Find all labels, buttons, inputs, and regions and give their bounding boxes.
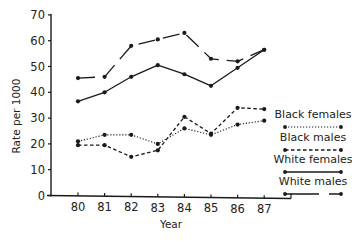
y-tick-label: 60 bbox=[30, 34, 45, 48]
legend-marker bbox=[283, 192, 287, 196]
y-tick-label: 10 bbox=[30, 163, 45, 177]
data-point bbox=[209, 131, 213, 135]
data-point bbox=[129, 44, 133, 48]
series-white-males bbox=[76, 31, 266, 80]
data-point bbox=[103, 75, 107, 79]
data-point bbox=[129, 75, 133, 79]
data-point bbox=[182, 72, 186, 76]
y-tick-label: 70 bbox=[30, 8, 45, 22]
legend-marker bbox=[283, 148, 287, 152]
data-point bbox=[236, 122, 240, 126]
x-axis: 8081828384858687 bbox=[47, 193, 291, 217]
legend-marker bbox=[283, 170, 287, 174]
data-point bbox=[76, 139, 80, 143]
data-point bbox=[262, 48, 266, 52]
data-point bbox=[103, 143, 107, 147]
legend-label: Black females bbox=[275, 108, 352, 121]
data-point bbox=[129, 133, 133, 137]
data-point bbox=[236, 106, 240, 110]
data-point bbox=[103, 90, 107, 94]
data-point bbox=[182, 115, 186, 119]
x-tick-label: 83 bbox=[150, 201, 165, 215]
data-point bbox=[76, 99, 80, 103]
data-point bbox=[262, 119, 266, 123]
legend-label: White males bbox=[279, 175, 348, 188]
data-point bbox=[209, 84, 213, 88]
data-point bbox=[209, 57, 213, 61]
x-tick-label: 87 bbox=[257, 202, 272, 216]
y-tick-label: 50 bbox=[30, 60, 45, 74]
data-point bbox=[156, 142, 160, 146]
x-tick-label: 80 bbox=[71, 200, 86, 214]
legend: Black femalesBlack malesWhite femalesWhi… bbox=[273, 108, 352, 196]
legend-label: White females bbox=[273, 153, 352, 166]
series-black-females bbox=[76, 119, 266, 146]
x-tick-label: 82 bbox=[124, 200, 139, 214]
data-point bbox=[156, 63, 160, 67]
x-tick-label: 84 bbox=[177, 201, 192, 215]
legend-marker bbox=[339, 125, 343, 129]
data-point bbox=[103, 133, 107, 137]
y-tick-label: 0 bbox=[38, 189, 45, 203]
data-point bbox=[76, 76, 80, 80]
series-group bbox=[76, 31, 266, 159]
legend-marker bbox=[339, 148, 343, 152]
legend-item: Black males bbox=[280, 131, 347, 152]
data-point bbox=[76, 143, 80, 147]
data-point bbox=[156, 148, 160, 152]
y-axis-label: Rate per 1000 bbox=[10, 79, 22, 154]
data-point bbox=[236, 59, 240, 63]
legend-marker bbox=[339, 192, 343, 196]
legend-marker bbox=[339, 170, 343, 174]
data-point bbox=[182, 31, 186, 35]
data-point bbox=[262, 107, 266, 111]
y-tick-label: 40 bbox=[30, 85, 45, 99]
data-point bbox=[129, 155, 133, 159]
legend-label: Black males bbox=[280, 131, 347, 144]
series-black-males bbox=[76, 106, 266, 159]
data-point bbox=[182, 126, 186, 130]
y-tick-label: 30 bbox=[30, 111, 45, 125]
x-tick-label: 85 bbox=[204, 201, 219, 215]
y-axis: 010203040506070 bbox=[30, 8, 51, 203]
data-point bbox=[156, 37, 160, 41]
legend-item: Black females bbox=[275, 108, 352, 129]
x-tick-label: 81 bbox=[97, 200, 112, 214]
legend-item: White females bbox=[273, 153, 352, 174]
x-axis-label: Year bbox=[159, 218, 183, 230]
y-tick-label: 20 bbox=[30, 137, 45, 151]
legend-item: White males bbox=[279, 175, 348, 196]
data-point bbox=[236, 66, 240, 70]
legend-marker bbox=[283, 125, 287, 129]
x-tick-label: 86 bbox=[230, 202, 245, 216]
line-chart: 010203040506070 8081828384858687 Rate pe… bbox=[0, 0, 352, 241]
